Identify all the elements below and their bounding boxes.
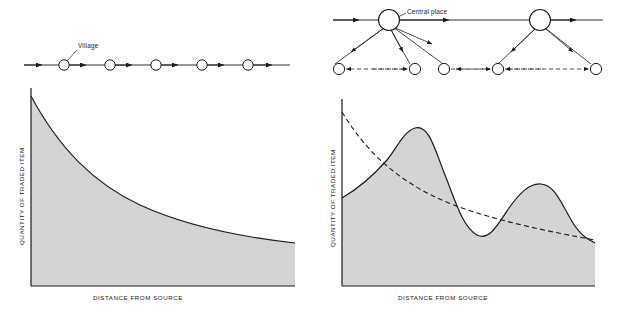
central-place-area (342, 128, 595, 286)
redistribution-links-east (498, 28, 591, 64)
x-axis-label: DISTANCE FROM SOURCE (93, 294, 183, 301)
redistribution-links-west (335, 27, 443, 64)
fall-off-area (31, 96, 295, 286)
central-place-leader-line (398, 13, 406, 17)
central-place-node (379, 10, 400, 31)
panel-central-place-redistribution: Central place QUANTITY OF TRADED ITEM DI… (311, 0, 622, 315)
satellite-node (409, 63, 420, 74)
satellite-node (333, 63, 344, 74)
x-axis-label: DISTANCE FROM SOURCE (398, 294, 488, 301)
central-place-node (530, 10, 551, 31)
village-leader-line (67, 50, 77, 61)
satellite-node (590, 63, 601, 74)
village-node (243, 60, 253, 70)
y-axis-label: QUANTITY OF TRADED ITEM (18, 147, 25, 245)
central-place-chart: QUANTITY OF TRADED ITEM DISTANCE FROM SO… (329, 99, 595, 301)
y-axis-label: QUANTITY OF TRADED ITEM (329, 149, 336, 247)
satellite-node (438, 63, 449, 74)
panel-down-the-line-trade: Village QUANTITY OF TRADED ITEM DISTANCE… (0, 0, 311, 315)
village-node (105, 60, 115, 70)
figure-root: Village QUANTITY OF TRADED ITEM DISTANCE… (0, 0, 622, 315)
central-place-label: Central place (407, 8, 448, 16)
village-node (151, 60, 161, 70)
village-node (197, 60, 207, 70)
village-node (59, 60, 69, 70)
village-label: Village (78, 42, 99, 50)
fall-off-chart: QUANTITY OF TRADED ITEM DISTANCE FROM SO… (18, 88, 295, 301)
central-place-diagram: Central place (333, 8, 603, 75)
village-chain-diagram: Village (24, 42, 290, 70)
satellite-node (492, 63, 503, 74)
